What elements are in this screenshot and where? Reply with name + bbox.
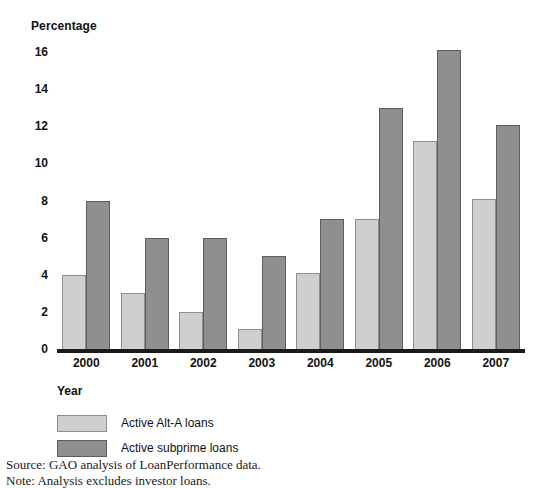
bar-alta-2001[interactable] [121,293,145,349]
bar-alta-2007[interactable] [472,199,496,349]
bar-group-2007 [472,41,520,349]
legend-swatch-subprime [57,440,107,457]
bar-subprime-2006[interactable] [437,50,461,349]
x-axis-tick-2001: 2001 [131,356,158,370]
x-axis-tick-2000: 2000 [73,356,100,370]
y-axis-tick-12: 12 [35,119,48,133]
bar-alta-2003[interactable] [238,329,262,349]
x-axis-tick-labels: 20002001200220032004200520062007 [57,356,525,374]
bar-subprime-2004[interactable] [320,219,344,349]
y-axis-tick-0: 0 [41,342,48,356]
bar-group-2001 [121,41,169,349]
bar-subprime-2003[interactable] [262,256,286,349]
plot-area [57,41,525,349]
x-axis-tick-2004: 2004 [307,356,334,370]
analysis-note: Note: Analysis excludes investor loans. [6,473,546,488]
bar-group-2005 [355,41,403,349]
y-axis-title: Percentage [31,19,97,33]
bar-group-2004 [296,41,344,349]
bar-alta-2000[interactable] [62,275,86,349]
y-axis-tick-8: 8 [41,194,48,208]
bar-group-2003 [238,41,286,349]
x-axis-title: Year [57,384,82,398]
bar-group-2006 [413,41,461,349]
bar-alta-2004[interactable] [296,273,320,349]
x-axis-tick-2005: 2005 [365,356,392,370]
y-axis-tick-labels: 0246810121416 [0,41,57,349]
source-note: Source: GAO analysis of LoanPerformance … [6,457,546,473]
x-axis-tick-2006: 2006 [424,356,451,370]
x-axis-tick-2002: 2002 [190,356,217,370]
bar-subprime-2000[interactable] [86,201,110,349]
y-axis-tick-16: 16 [35,45,48,59]
legend-swatch-alta [57,415,107,432]
bar-chart-figure: Percentage 0246810121416 200020012002200… [0,0,559,488]
legend-label-subprime: Active subprime loans [121,441,238,455]
bar-subprime-2005[interactable] [379,108,403,349]
legend-item-subprime[interactable]: Active subprime loans [57,437,238,459]
y-axis-tick-4: 4 [41,268,48,282]
x-axis-tick-2007: 2007 [482,356,509,370]
y-axis-tick-2: 2 [41,305,48,319]
bar-group-2000 [62,41,110,349]
bar-group-2002 [179,41,227,349]
y-axis-tick-14: 14 [35,82,48,96]
bar-subprime-2002[interactable] [203,238,227,349]
bar-subprime-2007[interactable] [496,125,520,350]
legend-item-alta[interactable]: Active Alt-A loans [57,412,238,434]
bar-alta-2006[interactable] [413,141,437,349]
bar-alta-2005[interactable] [355,219,379,349]
y-axis-tick-10: 10 [35,156,48,170]
y-axis-tick-6: 6 [41,231,48,245]
x-axis-tick-2003: 2003 [248,356,275,370]
legend-label-alta: Active Alt-A loans [121,416,214,430]
bar-subprime-2001[interactable] [145,238,169,349]
x-axis-baseline [57,349,525,353]
footnotes: Source: GAO analysis of LoanPerformance … [6,457,546,488]
chart-legend: Active Alt-A loansActive subprime loans [57,412,238,462]
bar-alta-2002[interactable] [179,312,203,349]
